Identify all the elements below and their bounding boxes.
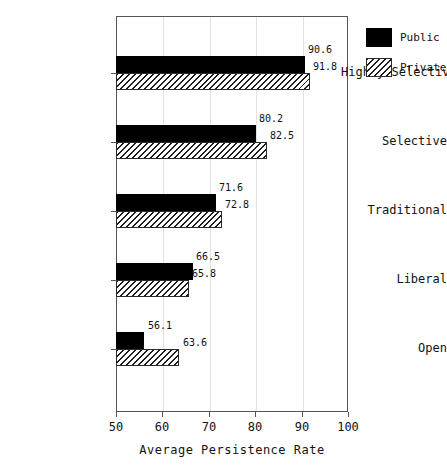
value-label-private-selective: 82.5 <box>270 130 294 141</box>
value-label-public-traditional: 71.6 <box>219 182 243 193</box>
bar-public-selective <box>116 125 256 142</box>
category-label-selective: Selective <box>341 135 447 148</box>
category-label-open: Open <box>341 342 447 355</box>
value-label-private-traditional: 72.8 <box>225 199 249 210</box>
legend-label-private: Private <box>400 61 446 74</box>
value-label-public-liberal: 66.5 <box>196 251 220 262</box>
x-tick-label-60: 60 <box>147 421 177 434</box>
chart-legend: Public Private <box>366 28 446 88</box>
bar-public-liberal <box>116 263 193 280</box>
value-label-public-open: 56.1 <box>148 320 172 331</box>
y-tick-liberal <box>111 280 117 281</box>
y-tick-highly-selective <box>111 73 117 74</box>
value-label-public-selective: 80.2 <box>259 113 283 124</box>
value-label-private-highly-selective: 91.8 <box>313 61 337 72</box>
bar-public-highly-selective <box>116 56 305 73</box>
x-tick-label-70: 70 <box>194 421 224 434</box>
bar-public-traditional <box>116 194 216 211</box>
x-tick-100 <box>348 412 349 417</box>
legend-item-public: Public <box>366 28 446 58</box>
x-tick-50 <box>116 412 117 417</box>
y-tick-open <box>111 349 117 350</box>
x-tick-label-80: 80 <box>240 421 270 434</box>
x-tick-label-90: 90 <box>287 421 317 434</box>
y-tick-traditional <box>111 211 117 212</box>
x-tick-80 <box>255 412 256 417</box>
legend-item-private: Private <box>366 58 446 88</box>
bar-private-highly-selective <box>116 73 310 90</box>
bar-private-open <box>116 349 179 366</box>
y-tick-selective <box>111 142 117 143</box>
value-label-private-open: 63.6 <box>183 337 207 348</box>
x-tick-60 <box>162 412 163 417</box>
bar-public-open <box>116 332 144 349</box>
x-axis-title: Average Persistence Rate <box>116 443 348 457</box>
bar-private-selective <box>116 142 267 159</box>
x-tick-label-50: 50 <box>101 421 131 434</box>
bar-private-traditional <box>116 211 222 228</box>
bars-layer <box>116 16 348 412</box>
category-label-traditional: Traditional <box>341 204 447 217</box>
value-label-public-highly-selective: 90.6 <box>308 44 332 55</box>
x-tick-90 <box>302 412 303 417</box>
x-tick-label-100: 100 <box>333 421 363 434</box>
chart-canvas: 90.6 91.8 80.2 82.5 71.6 72.8 66.5 65.8 … <box>0 0 447 473</box>
x-tick-70 <box>209 412 210 417</box>
legend-swatch-public-icon <box>366 28 392 47</box>
bar-private-liberal <box>116 280 189 297</box>
legend-label-public: Public <box>400 31 440 44</box>
legend-swatch-private-icon <box>366 58 392 77</box>
category-label-liberal: Liberal <box>341 273 447 286</box>
value-label-private-liberal: 65.8 <box>192 268 216 279</box>
